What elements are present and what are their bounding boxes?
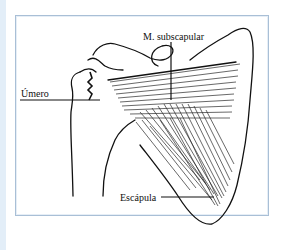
humerus-tuberosity-hatch bbox=[88, 72, 92, 100]
anatomy-illustration: M. subscapular Úmero Escápula bbox=[0, 0, 283, 250]
humerus-head bbox=[71, 72, 80, 196]
coracoid-inner bbox=[88, 58, 123, 70]
label-muscle: M. subscapular bbox=[143, 31, 205, 42]
glenoid-line bbox=[108, 62, 236, 80]
humerus-inner bbox=[103, 120, 135, 196]
humerus-top bbox=[80, 69, 96, 72]
scapula-outline bbox=[140, 28, 253, 224]
coracoid-process bbox=[93, 43, 173, 66]
label-scapula: Escápula bbox=[120, 192, 157, 203]
subscapularis-fibers bbox=[110, 64, 240, 206]
label-humerus: Úmero bbox=[21, 88, 49, 99]
